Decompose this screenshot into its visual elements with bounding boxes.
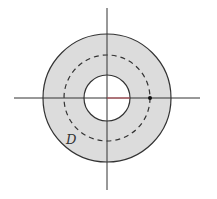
diagram-canvas: D: [0, 0, 217, 199]
annulus-diagram: D: [0, 0, 217, 199]
marked-point: [148, 96, 152, 100]
region-label: D: [65, 132, 77, 147]
